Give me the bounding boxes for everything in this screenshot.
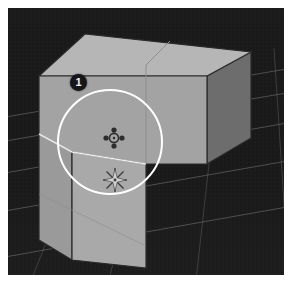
snap-star-icon[interactable] [103,168,127,192]
viewport-3d[interactable]: 1 [8,8,284,275]
scene-canvas[interactable] [8,8,284,275]
extrusion-side-face [39,134,72,260]
extrusion-front-face [72,152,146,268]
screenshot-root: 1 [0,0,292,282]
step-badge-1: 1 [70,74,87,91]
